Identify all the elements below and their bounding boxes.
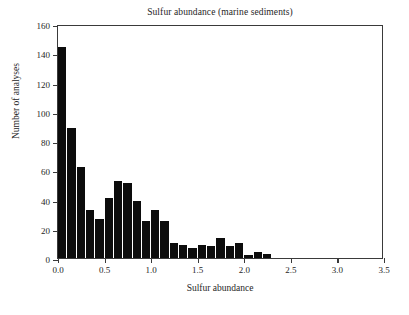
y-tick-label: 0 [46, 255, 51, 265]
x-tick-mark [105, 258, 106, 263]
y-tick-mark [53, 26, 58, 27]
x-tick-mark [291, 258, 292, 263]
y-tick-mark [53, 172, 58, 173]
y-tick-mark [53, 85, 58, 86]
x-tick-mark [384, 258, 385, 263]
y-tick-mark [53, 114, 58, 115]
histogram-bar [114, 181, 123, 259]
x-tick-label: 3.5 [378, 265, 389, 275]
histogram-bar [142, 221, 151, 258]
x-axis-label: Sulfur abundance [57, 283, 383, 293]
histogram-bar [254, 252, 263, 258]
histogram-bar [207, 246, 216, 258]
histogram-bar [179, 245, 188, 258]
y-tick-label: 100 [37, 109, 51, 119]
y-tick-label: 120 [37, 80, 51, 90]
x-tick-label: 0.5 [99, 265, 110, 275]
y-axis-label: Number of analyses [11, 41, 21, 161]
histogram-figure: Sulfur abundance (marine sediments) 0204… [0, 0, 409, 315]
histogram-bar [105, 198, 114, 258]
x-tick-mark [198, 258, 199, 263]
y-tick-label: 20 [41, 226, 50, 236]
x-tick-label: 2.0 [239, 265, 250, 275]
y-tick-label: 140 [37, 50, 51, 60]
y-tick-mark [53, 202, 58, 203]
histogram-bar [77, 167, 86, 258]
y-tick-label: 60 [41, 167, 50, 177]
histogram-bar [67, 128, 76, 258]
histogram-bar [95, 219, 104, 258]
histogram-bar [151, 210, 160, 258]
y-tick-mark [53, 143, 58, 144]
bars-layer [58, 26, 383, 258]
x-tick-label: 3.0 [332, 265, 343, 275]
x-tick-label: 1.5 [192, 265, 203, 275]
histogram-bar [235, 243, 244, 258]
y-tick-mark [53, 55, 58, 56]
histogram-bar [198, 245, 207, 258]
x-tick-mark [58, 258, 59, 263]
plot-area: 020406080100120140160 0.00.51.01.52.02.5… [57, 25, 383, 259]
x-tick-label: 0.0 [52, 265, 63, 275]
histogram-bar [86, 210, 95, 258]
histogram-bar [170, 243, 179, 258]
y-tick-mark [53, 231, 58, 232]
x-tick-mark [151, 258, 152, 263]
x-tick-mark [244, 258, 245, 263]
x-tick-label: 2.5 [285, 265, 296, 275]
plot-right-border [382, 25, 383, 259]
histogram-bar [58, 47, 67, 258]
y-tick-label: 80 [41, 138, 50, 148]
y-tick-label: 160 [37, 21, 51, 31]
x-tick-mark [337, 258, 338, 263]
histogram-bar [244, 255, 253, 258]
histogram-bar [133, 201, 142, 258]
histogram-bar [123, 183, 132, 258]
histogram-bar [160, 221, 169, 258]
chart-title: Sulfur abundance (marine sediments) [57, 7, 383, 17]
y-tick-label: 40 [41, 197, 50, 207]
histogram-bar [188, 248, 197, 258]
x-tick-label: 1.0 [146, 265, 157, 275]
histogram-bar [216, 238, 225, 258]
histogram-bar [263, 254, 272, 258]
histogram-bar [226, 246, 235, 258]
